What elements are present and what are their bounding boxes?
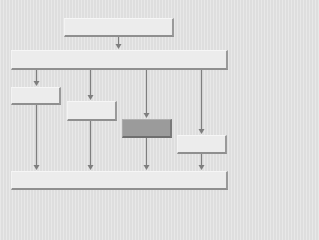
top-box [64, 18, 174, 37]
wide-distribution-box [11, 50, 228, 70]
branch-box-3-highlighted [122, 119, 172, 138]
arrow-icon [34, 70, 40, 86]
arrow-icon [144, 138, 150, 170]
flowchart-diagram [0, 0, 242, 208]
arrow-icon [199, 70, 205, 134]
bottom-collector-box [11, 171, 228, 190]
arrow-icon [88, 70, 94, 100]
branch-box-2 [67, 101, 117, 121]
arrow-icon [199, 154, 205, 170]
arrow-icon [144, 70, 150, 118]
arrow-icon [34, 105, 40, 170]
branch-box-1 [11, 87, 61, 105]
arrow-icon [116, 37, 122, 49]
arrow-icon [88, 121, 94, 170]
branch-box-4 [177, 135, 227, 154]
